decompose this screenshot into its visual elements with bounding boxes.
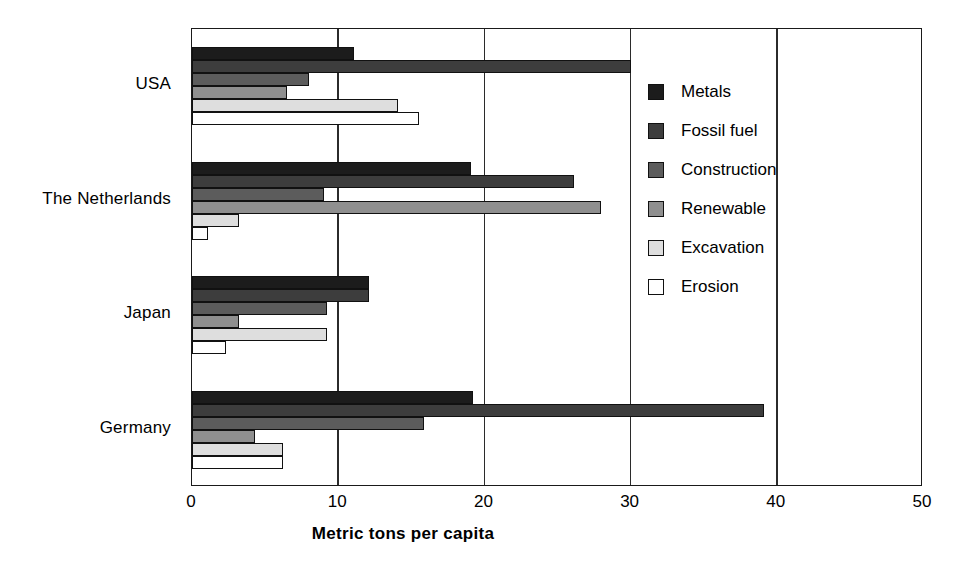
bar (192, 456, 283, 469)
bar (192, 443, 283, 456)
x-axis-title: Metric tons per capita (0, 524, 956, 544)
bar (192, 86, 287, 99)
bar (192, 175, 574, 188)
legend-item[interactable]: Fossil fuel (648, 111, 898, 150)
legend-swatch-fossil-fuel-icon (648, 123, 664, 139)
bar (192, 162, 471, 175)
legend-swatch-excavation-icon (648, 240, 664, 256)
bar (192, 112, 419, 125)
legend-item[interactable]: Metals (648, 72, 898, 111)
bar (192, 276, 369, 289)
x-tick-50: 50 (913, 492, 932, 512)
legend-label: Erosion (681, 277, 739, 297)
x-tick-30: 30 (620, 492, 639, 512)
bar (192, 341, 226, 354)
x-tick-0: 0 (186, 492, 195, 512)
x-tick-10: 10 (328, 492, 347, 512)
bar (192, 430, 255, 443)
y-axis-label-usa: USA (135, 74, 171, 94)
legend-label: Fossil fuel (681, 121, 758, 141)
bar (192, 188, 324, 201)
legend-label: Excavation (681, 238, 764, 258)
bar (192, 201, 601, 214)
y-axis-label-japan: Japan (124, 303, 171, 323)
x-axis-tick-labels: 01020304050 (0, 492, 956, 522)
bar (192, 289, 369, 302)
x-tick-40: 40 (766, 492, 785, 512)
bar (192, 391, 473, 404)
bar (192, 315, 239, 328)
bar (192, 328, 327, 341)
y-axis-label-germany: Germany (100, 418, 171, 438)
bar (192, 60, 631, 73)
bar (192, 302, 327, 315)
legend-label: Renewable (681, 199, 766, 219)
chart-figure: USAThe NetherlandsJapanGermany 010203040… (0, 0, 956, 579)
bar (192, 47, 354, 60)
bar (192, 99, 398, 112)
legend-label: Metals (681, 82, 731, 102)
chart-legend: MetalsFossil fuelConstructionRenewableEx… (648, 72, 898, 306)
legend-swatch-erosion-icon (648, 279, 664, 295)
bar (192, 404, 764, 417)
legend-item[interactable]: Erosion (648, 267, 898, 306)
legend-item[interactable]: Excavation (648, 228, 898, 267)
legend-swatch-construction-icon (648, 162, 664, 178)
bar (192, 417, 424, 430)
legend-swatch-metals-icon (648, 84, 664, 100)
bar (192, 73, 309, 86)
bar-group (192, 373, 921, 488)
legend-item[interactable]: Renewable (648, 189, 898, 228)
bar (192, 214, 239, 227)
x-axis-title-text: Metric tons per capita (312, 524, 494, 544)
bar (192, 227, 208, 240)
legend-swatch-renewable-icon (648, 201, 664, 217)
legend-label: Construction (681, 160, 776, 180)
legend-item[interactable]: Construction (648, 150, 898, 189)
x-tick-20: 20 (474, 492, 493, 512)
y-axis-label-the-netherlands: The Netherlands (42, 189, 171, 209)
